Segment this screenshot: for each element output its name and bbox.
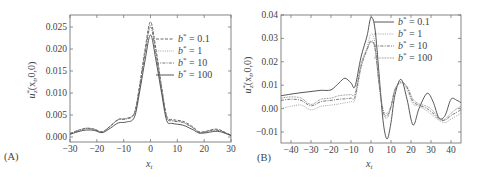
x-tick-label: −30 [63,144,78,154]
x-tick-label: 30 [226,144,236,154]
figure-canvas: −30−20−1001020300.0000.0050.0100.0150.02… [0,0,482,177]
y-tick-label: 0.025 [46,22,68,32]
x-tick-label: 30 [426,145,436,155]
y-tick-label: −0.01 [256,127,278,137]
x-tick-label: 0 [369,145,374,155]
y-tick-label: 0.010 [46,88,68,98]
legend-entry: b* = 100 [178,68,212,80]
y-tick-label: 0.015 [46,66,68,76]
x-tick-label: −10 [116,144,131,154]
panel-b: −40−30−20−10010203040−0.010.000.010.020.… [241,10,461,171]
legend-entry: b* = 10 [398,39,427,51]
y-tick-label: 0.00 [261,104,278,114]
y-axis-title-b: u*z(xt,0,0) [241,57,255,94]
panel-a: −30−20−1001020300.0000.0050.0100.0150.02… [4,15,236,171]
panel-label-a: (A) [4,151,19,163]
x-tick-label: −20 [89,144,104,154]
y-tick-label: 0.03 [261,33,278,43]
x-tick-label: 40 [446,145,456,155]
y-axis-title-a: u*z(xt,0,0) [25,62,39,99]
x-tick-label: −40 [284,145,299,155]
x-tick-label: 20 [199,144,209,154]
y-tick-label: 0.02 [261,57,278,67]
y-tick-label: 0.000 [46,132,68,142]
y-tick-label: 0.01 [261,80,278,90]
series-line [281,34,461,123]
x-tick-label: −20 [324,145,339,155]
legend-a: b* = 0.1b* = 1b* = 10b* = 100 [156,32,212,80]
series-line [281,17,461,139]
x-axis-title-b: xt [365,158,373,171]
series-lines-b [281,17,461,139]
legend-entry: b* = 1 [178,44,202,56]
y-tick-label: 0.005 [46,110,68,120]
x-tick-label: 0 [148,144,153,154]
legend-entry: b* = 1 [398,27,422,39]
y-tick-label: 0.020 [46,44,68,54]
x-tick-label: 10 [386,145,396,155]
x-tick-label: 20 [406,145,416,155]
series-line [281,42,461,120]
x-tick-label: 10 [173,144,183,154]
series-line [70,35,231,136]
legend-entry: b* = 0.1 [178,32,210,44]
legend-entry: b* = 10 [178,56,207,68]
legend-b: b* = 0.1b* = 1b* = 10b* = 100 [374,15,432,63]
series-line [281,41,461,121]
x-tick-label: −30 [304,145,319,155]
y-tick-label: 0.04 [261,10,278,20]
panel-label-b: (B) [257,152,272,164]
legend-entry: b* = 100 [398,51,432,63]
x-tick-label: −10 [344,145,359,155]
x-axis-title-a: xt [145,158,153,171]
legend-entry: b* = 0.1 [398,15,430,27]
